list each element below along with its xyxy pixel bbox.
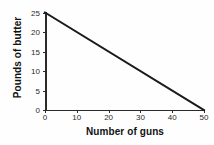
chart-figure: 0 10 20 30 40 50 0 5 10 15 20 25 Number … xyxy=(0,0,214,145)
plot-area xyxy=(0,0,214,145)
x-axis-label: Number of guns xyxy=(45,126,205,137)
series-line-ppf xyxy=(45,13,204,111)
y-axis-label: Pounds of butter xyxy=(12,3,23,113)
